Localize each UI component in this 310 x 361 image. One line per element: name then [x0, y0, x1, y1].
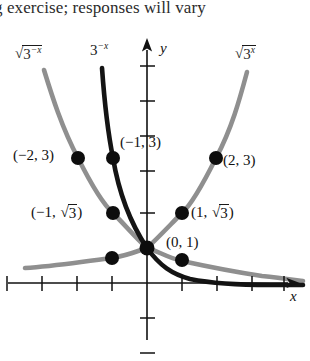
pt-suffix: )	[229, 204, 234, 220]
radicand: 3	[219, 204, 229, 222]
y-axis-label: y	[160, 40, 167, 57]
radicand: 3	[68, 204, 78, 222]
curve-label-sqrt-three-x: √3x	[234, 44, 256, 62]
pt-prefix: (−1,	[31, 204, 59, 220]
curve-label-three-neg-x: 3−x	[90, 42, 108, 59]
point-label-2-3: (2, 3)	[223, 152, 256, 169]
dot-right-low	[175, 253, 189, 267]
radical-group: √3	[59, 203, 77, 221]
dot-minus2-3	[71, 151, 85, 165]
radical-group: √3−x	[14, 44, 42, 62]
exponential-graph-figure: g exercise; responses will vary	[0, 0, 310, 361]
radical-group: √3	[211, 203, 229, 221]
dot-1-sqrt3	[175, 206, 189, 220]
point-label-minus2-3: (−2, 3)	[13, 147, 54, 164]
radicand: 3−x	[22, 45, 42, 63]
point-label-minus1-3: (−1, 3)	[120, 134, 161, 151]
point-label-0-1: (0, 1)	[166, 234, 199, 251]
graph-canvas	[0, 0, 310, 361]
exponent: x	[251, 45, 255, 55]
radical-group: √3x	[234, 44, 256, 62]
dot-0-1	[140, 241, 155, 256]
point-label-1-sqrt3: (1, √3)	[191, 203, 234, 221]
dot-2-3	[209, 151, 223, 165]
dot-left-low	[105, 251, 119, 265]
pt-suffix: )	[77, 204, 82, 220]
dot-minus1-sqrt3	[106, 206, 120, 220]
point-label-minus1-sqrt3: (−1, √3)	[31, 203, 82, 221]
exponent: −x	[98, 41, 109, 51]
pt-prefix: (1,	[191, 204, 211, 220]
x-axis-label: x	[290, 288, 297, 305]
dot-minus1-3	[106, 151, 120, 165]
curve-label-sqrt-three-neg-x: √3−x	[14, 44, 42, 62]
radicand: 3x	[242, 45, 256, 63]
exponent: −x	[31, 45, 42, 55]
